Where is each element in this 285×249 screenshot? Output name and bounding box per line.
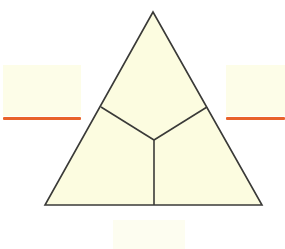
triangle-figure [0, 0, 285, 249]
callout-box-right [226, 65, 285, 116]
callout-label-bottom [113, 220, 185, 249]
callout-rule-left [3, 117, 81, 120]
callout-box-bottom [113, 220, 185, 249]
callout-label-right [226, 65, 285, 116]
callout-rule-right [226, 117, 285, 120]
diagram-canvas [0, 0, 285, 249]
callout-label-left [3, 65, 81, 116]
callout-box-left [3, 65, 81, 116]
